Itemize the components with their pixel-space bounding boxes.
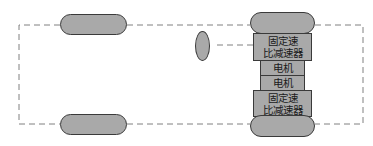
steering-oval xyxy=(195,31,210,61)
motor-bottom-label: 电机 xyxy=(273,77,293,89)
reducer-bottom: 固定速 比减速器 xyxy=(253,90,312,117)
wheel-rear-left xyxy=(60,114,127,135)
motor-top: 电机 xyxy=(260,60,305,76)
wheel-front-right xyxy=(250,12,315,34)
reducer-top: 固定速 比减速器 xyxy=(253,33,312,61)
motor-top-label: 电机 xyxy=(273,62,293,74)
wheel-rear-right xyxy=(250,115,315,137)
reducer-top-line2: 比减速器 xyxy=(263,47,303,59)
reducer-bottom-line2: 比减速器 xyxy=(263,104,303,116)
dashed-frame xyxy=(0,0,373,146)
motor-bottom: 电机 xyxy=(260,75,305,91)
reducer-top-line1: 固定速 xyxy=(268,35,298,47)
wheel-front-left xyxy=(60,14,127,35)
reducer-bottom-line1: 固定速 xyxy=(268,92,298,104)
